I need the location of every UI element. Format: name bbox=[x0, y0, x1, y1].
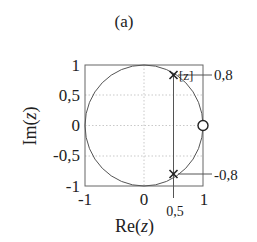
zero-marker bbox=[198, 121, 208, 131]
ytick-0: 0 bbox=[72, 116, 81, 135]
annotation-z: [z] bbox=[179, 68, 193, 83]
xtick-0.5: 0,5 bbox=[166, 204, 184, 219]
x-axis-label: Re(z) bbox=[115, 216, 154, 237]
ytick-1: 1 bbox=[72, 56, 81, 75]
grid bbox=[85, 65, 203, 186]
y-axis-label: Im(z) bbox=[20, 106, 41, 145]
annotation-minus-0.8: -0,8 bbox=[214, 167, 238, 183]
ytick-0.5: 0,5 bbox=[59, 86, 80, 105]
xtick-1: 1 bbox=[200, 190, 209, 209]
annotation-0.8: 0,8 bbox=[214, 67, 233, 83]
chart-title: (a) bbox=[115, 12, 134, 31]
pole-zero-plot: (a) [z] 0,8 -0,8 1 0,5 0 -0,5 -1 -1 bbox=[0, 0, 257, 242]
xtick-minus-1: -1 bbox=[78, 190, 92, 209]
xtick-0: 0 bbox=[140, 190, 149, 209]
ytick-minus-0.5: -0,5 bbox=[53, 146, 80, 165]
